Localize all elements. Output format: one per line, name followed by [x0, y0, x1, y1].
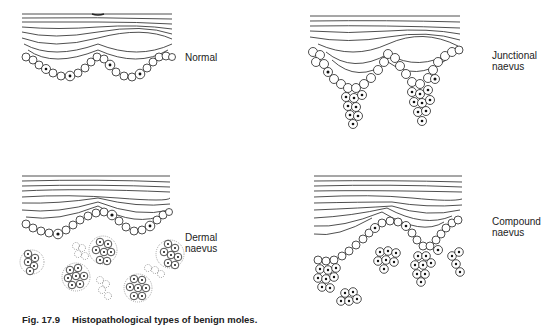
panel-dermal — [18, 172, 178, 302]
nest-left — [309, 48, 405, 129]
panel-compound — [312, 172, 472, 300]
compound-naevus-diagram — [312, 172, 472, 300]
label-junctional-line-2: naevus — [492, 61, 537, 72]
panel-normal — [18, 10, 178, 85]
label-normal: Normal — [185, 52, 217, 63]
label-dermal: Dermal naevus — [185, 232, 217, 254]
junctional-naevus-diagram — [308, 12, 468, 132]
label-dermal-line-1: Dermal — [185, 232, 217, 243]
panel-junctional — [308, 12, 468, 132]
label-compound-line-1: Compound — [492, 216, 541, 227]
label-compound: Compound naevus — [492, 216, 541, 238]
dermal-naevus-diagram — [18, 172, 178, 302]
nest-right — [402, 46, 464, 126]
normal-skin-diagram — [18, 10, 178, 85]
label-junctional-line-1: Junctional — [492, 50, 537, 61]
dermal-nests — [314, 247, 465, 306]
figure-caption-text: Histopathological types of benign moles. — [72, 314, 257, 325]
label-junctional: Junctional naevus — [492, 50, 537, 72]
ghost-nests — [73, 243, 165, 300]
figure-caption: Fig. 17.9Histopathological types of beni… — [22, 314, 257, 325]
figure-number: Fig. 17.9 — [22, 314, 60, 325]
dermal-nests — [20, 236, 184, 302]
label-dermal-line-2: naevus — [185, 243, 217, 254]
label-normal-line-1: Normal — [185, 52, 217, 63]
label-compound-line-2: naevus — [492, 227, 541, 238]
